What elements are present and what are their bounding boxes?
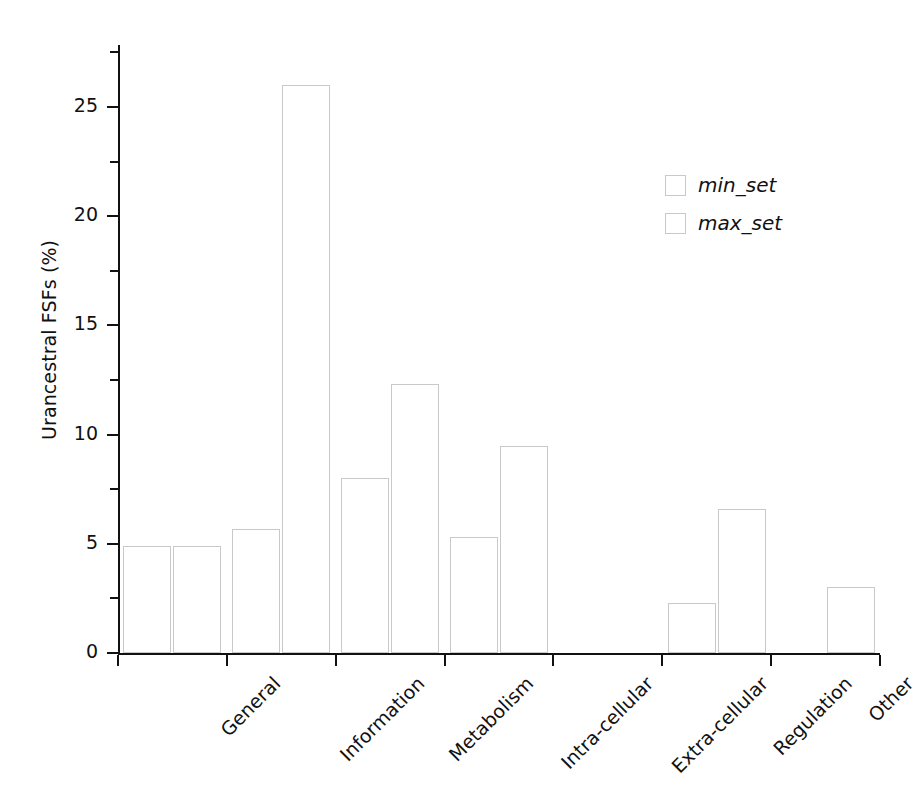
- bar-min-set-metabolism: [341, 478, 389, 653]
- x-tick: [117, 655, 119, 666]
- y-tick-label: 25: [58, 96, 98, 115]
- bar-max-set-other: [827, 587, 875, 653]
- legend-item-min-set[interactable]: min_set: [665, 172, 782, 198]
- y-tick-major: [107, 324, 118, 326]
- x-tick: [879, 655, 881, 666]
- x-axis-line: [118, 653, 880, 655]
- y-tick-minor: [110, 270, 118, 272]
- x-tick: [661, 655, 663, 666]
- x-axis-label-other: Other: [863, 672, 917, 726]
- y-tick-label: 5: [58, 533, 98, 552]
- legend-label-max-set: max_set: [698, 213, 782, 233]
- bar-min-set-regulation: [668, 603, 716, 653]
- y-tick-major: [107, 106, 118, 108]
- bar-max-set-information: [282, 85, 330, 653]
- legend-swatch-max-set: [665, 213, 686, 234]
- x-axis-label-metabolism: Metabolism: [444, 672, 537, 765]
- bar-min-set-intra-cellular: [450, 537, 498, 653]
- y-axis-line: [118, 45, 120, 655]
- bar-max-set-intra-cellular: [500, 446, 548, 653]
- x-axis-label-regulation: Regulation: [768, 672, 855, 759]
- y-axis-title: Urancestral FSFs (%): [38, 240, 60, 440]
- y-tick-minor: [110, 488, 118, 490]
- x-axis-label-intra-cellular: Intra-cellular: [556, 672, 657, 773]
- bar-max-set-metabolism: [391, 384, 439, 653]
- y-tick-minor: [110, 597, 118, 599]
- x-axis-label-information: Information: [335, 672, 428, 765]
- x-axis-label-general: General: [216, 672, 285, 741]
- bar-min-set-general: [123, 546, 171, 653]
- x-tick: [335, 655, 337, 666]
- x-tick: [226, 655, 228, 666]
- bar-max-set-general: [173, 546, 221, 653]
- y-tick-minor: [110, 379, 118, 381]
- y-tick-major: [107, 434, 118, 436]
- x-tick: [770, 655, 772, 666]
- y-tick-label: 20: [58, 205, 98, 224]
- x-tick: [444, 655, 446, 666]
- y-tick-label: 0: [58, 642, 98, 661]
- bar-min-set-information: [232, 529, 280, 653]
- x-tick: [552, 655, 554, 666]
- chart-legend: min_set max_set: [665, 172, 782, 248]
- legend-swatch-min-set: [665, 175, 686, 196]
- x-axis-label-extra-cellular: Extra-cellular: [667, 672, 772, 777]
- bar-max-set-regulation: [718, 509, 766, 653]
- y-tick-minor: [110, 51, 118, 53]
- legend-item-max-set[interactable]: max_set: [665, 210, 782, 236]
- y-tick-minor: [110, 161, 118, 163]
- legend-label-min-set: min_set: [698, 175, 776, 195]
- y-tick-major: [107, 652, 118, 654]
- y-tick-major: [107, 215, 118, 217]
- y-tick-label: 15: [58, 314, 98, 333]
- y-tick-major: [107, 543, 118, 545]
- y-tick-label: 10: [58, 424, 98, 443]
